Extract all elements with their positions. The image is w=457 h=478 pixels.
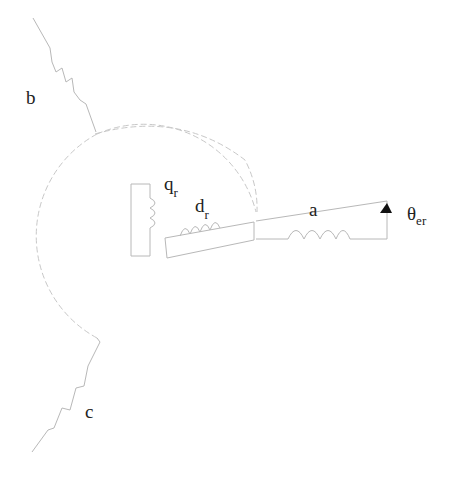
label-dr: dr [195, 195, 210, 222]
rotor-boundary [36, 124, 256, 338]
q-rotor-winding [131, 184, 155, 256]
phase-b-winding [33, 18, 96, 132]
label-qr: qr [164, 173, 179, 200]
phase-a-winding [256, 201, 387, 239]
machine-diagram: b c a qr dr θer [0, 0, 457, 478]
d-rotor-winding [165, 222, 254, 258]
phase-c-winding [32, 338, 100, 452]
label-b: b [26, 87, 36, 108]
label-c: c [85, 401, 93, 422]
label-theta-er: θer [407, 203, 427, 228]
theta-arrow-icon [380, 203, 392, 213]
label-a: a [309, 199, 318, 220]
